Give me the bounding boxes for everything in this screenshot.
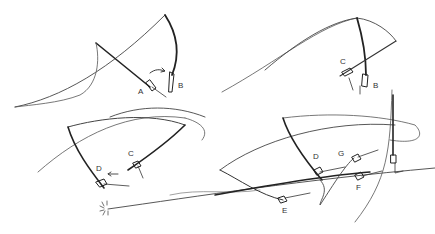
label-f: F <box>356 184 361 192</box>
label-d-2: D <box>313 153 319 161</box>
label-b-1: B <box>178 82 183 90</box>
trajectory <box>100 168 435 215</box>
label-c-2: C <box>128 150 134 158</box>
label-g: G <box>338 150 344 158</box>
label-c-1: C <box>340 58 346 66</box>
label-a: A <box>138 88 143 96</box>
panel-2 <box>222 18 396 94</box>
casting-diagram <box>0 0 435 234</box>
panel-1 <box>15 15 205 117</box>
panel-3 <box>38 117 205 188</box>
label-b-2: B <box>373 82 378 90</box>
sparkle-icon <box>100 201 108 215</box>
label-d-1: D <box>96 165 102 173</box>
label-e: E <box>282 207 287 215</box>
